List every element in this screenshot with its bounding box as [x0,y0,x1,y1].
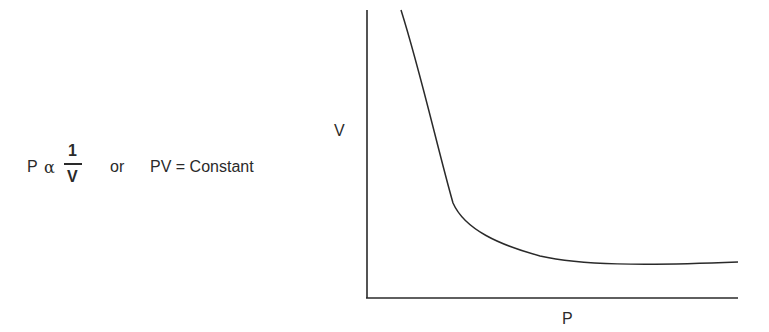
pressure-volume-chart [0,0,769,332]
x-axis-label: P [562,310,573,328]
pv-curve [401,10,738,264]
y-axis-label: V [334,122,345,140]
